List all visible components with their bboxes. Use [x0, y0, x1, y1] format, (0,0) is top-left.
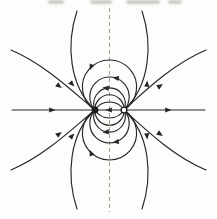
arrow-axis-left	[49, 107, 55, 112]
cropped-text-artifact	[48, 0, 64, 4]
arrow-loop2-lower-right	[112, 139, 119, 145]
arrow-loop3-top	[102, 85, 109, 91]
arrow-axis-center	[106, 107, 112, 112]
arrow-upper-right-vertical	[144, 80, 150, 87]
charge-filled	[92, 107, 99, 114]
cropped-text-artifact	[126, 0, 160, 4]
dipole-field-diagram	[0, 0, 217, 219]
field-line-figure	[0, 0, 217, 219]
open-line-lower-left-vertical	[71, 110, 95, 209]
open-line-upper-left-diagonal	[11, 50, 95, 110]
cropped-text-artifact	[168, 0, 182, 4]
open-line-upper-left-vertical	[71, 11, 95, 110]
open-line-lower-left-diagonal	[11, 110, 95, 170]
arrow-upper-left-vertical	[68, 80, 76, 88]
arrow-axis-right	[165, 107, 171, 112]
cropped-text-artifact	[90, 0, 112, 4]
charge-open	[121, 107, 127, 113]
arrow-lower-left-diagonal	[55, 130, 63, 138]
open-line-upper-right-vertical	[124, 11, 148, 110]
arrow-lower-right-vertical	[144, 133, 150, 140]
arrow-lower-right-diagonal	[156, 130, 164, 138]
open-line-lower-right-vertical	[124, 110, 148, 209]
arrow-upper-left-diagonal	[55, 82, 63, 90]
arrow-loop3-bottom	[102, 129, 109, 135]
arrow-lower-left-vertical	[68, 132, 76, 140]
arrow-loop2-upper-right	[112, 75, 119, 81]
arrow-upper-right-diagonal	[156, 82, 164, 90]
